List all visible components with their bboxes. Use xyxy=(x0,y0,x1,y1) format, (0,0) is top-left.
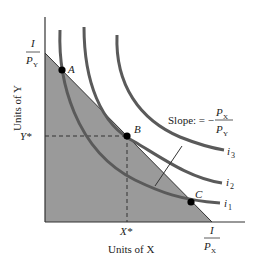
svg-text:i: i xyxy=(224,197,227,209)
slope-annotation: Slope: = − P X P Y xyxy=(168,106,233,138)
point-a-marker xyxy=(58,66,65,73)
svg-text:i: i xyxy=(227,145,230,157)
x-axis-title: Units of X xyxy=(108,243,155,255)
svg-text:P: P xyxy=(25,54,33,66)
indifference-curve-diagram: A B C i 3 i 2 i 1 Slope: = − P X P Y I P… xyxy=(0,0,258,273)
y-intercept-label: I P Y xyxy=(25,37,40,69)
svg-text:I: I xyxy=(30,37,36,49)
x-star-label: X* xyxy=(119,225,133,237)
svg-text:P: P xyxy=(203,240,211,252)
svg-text:P: P xyxy=(215,123,223,135)
x-intercept-label: I P X xyxy=(203,224,220,255)
point-b-label: B xyxy=(134,123,141,135)
svg-text:Slope: = −: Slope: = − xyxy=(168,114,214,126)
svg-text:X: X xyxy=(211,247,216,255)
svg-text:1: 1 xyxy=(228,203,232,212)
indifference-curve-i3 xyxy=(117,35,224,150)
curve-label-i2: i 2 xyxy=(226,176,234,191)
svg-text:2: 2 xyxy=(230,182,234,191)
svg-text:I: I xyxy=(209,224,215,236)
curve-label-i1: i 1 xyxy=(224,197,232,212)
point-c-marker xyxy=(187,198,194,205)
y-axis-title: Units of Y xyxy=(11,85,23,131)
svg-text:P: P xyxy=(215,106,223,118)
point-c-label: C xyxy=(195,188,203,200)
svg-text:i: i xyxy=(226,176,229,188)
svg-text:3: 3 xyxy=(231,151,235,160)
curve-label-i3: i 3 xyxy=(227,145,235,160)
point-a-label: A xyxy=(67,63,75,75)
svg-text:Y: Y xyxy=(223,130,228,138)
svg-text:Y: Y xyxy=(33,61,38,69)
point-b-marker xyxy=(123,132,130,139)
